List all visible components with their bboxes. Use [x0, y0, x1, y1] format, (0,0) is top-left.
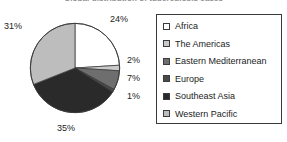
legend-item-africa[interactable]: Africa [163, 19, 279, 33]
legend-item-label: Africa [175, 21, 198, 31]
legend-item-label: Western Pacific [175, 109, 237, 119]
pie-chart-figure: Global distribution of tuberculosis case… [0, 0, 287, 142]
pie-slice-africa[interactable] [75, 23, 120, 68]
swatch-western-pacific [163, 110, 170, 117]
pie-label-southeast-asia: 35% [57, 123, 75, 133]
swatch-eastern-mediterranean [163, 58, 170, 65]
swatch-the-americas [163, 40, 170, 47]
legend-item-europe[interactable]: Europe [163, 72, 279, 86]
legend-item-label: The Americas [175, 39, 230, 49]
chart-legend: AfricaThe AmericasEastern MediterraneanE… [156, 14, 282, 124]
pie-label-the-americas: 2% [127, 55, 140, 65]
legend-item-western-pacific[interactable]: Western Pacific [163, 107, 279, 121]
legend-item-the-americas[interactable]: The Americas [163, 37, 279, 51]
pie-label-eastern-mediterranean: 7% [127, 73, 140, 83]
pie-label-europe: 1% [127, 91, 140, 101]
swatch-southeast-asia [163, 93, 170, 100]
legend-item-eastern-mediterranean[interactable]: Eastern Mediterranean [163, 54, 279, 68]
swatch-africa [163, 23, 170, 30]
pie-svg [28, 21, 122, 115]
chart-title: Global distribution of tuberculosis case… [0, 0, 287, 1]
swatch-europe [163, 75, 170, 82]
legend-item-label: Eastern Mediterranean [175, 56, 267, 66]
pie-label-africa: 24% [110, 14, 128, 24]
pie-chart-plot-area [28, 21, 122, 115]
legend-item-label: Southeast Asia [175, 91, 235, 101]
legend-item-list: AfricaThe AmericasEastern MediterraneanE… [163, 19, 279, 121]
legend-item-label: Europe [175, 74, 204, 84]
legend-item-southeast-asia[interactable]: Southeast Asia [163, 89, 279, 103]
pie-label-western-pacific: 31% [4, 21, 22, 31]
